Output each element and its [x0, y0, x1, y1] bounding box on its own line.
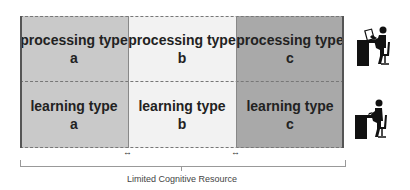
resource-grid: processing typea learning typea processi… — [20, 16, 344, 148]
cell-label: processing type — [128, 31, 235, 49]
top-dashed-border — [20, 16, 344, 17]
cell-processing-c: processing typec — [236, 16, 344, 81]
divider-b-c — [236, 16, 237, 148]
cell-label: learning type — [30, 97, 117, 115]
left-edge — [20, 16, 22, 148]
cell-learning-a: learning typea — [20, 81, 128, 148]
cell-sublabel: a — [20, 49, 127, 67]
cell-sublabel: b — [138, 115, 225, 133]
cell-learning-c: learning typec — [236, 81, 344, 148]
cell-processing-a: processing typea — [20, 16, 128, 81]
cell-processing-b: processing typeb — [128, 16, 236, 81]
cell-sublabel: c — [236, 49, 343, 67]
cell-sublabel: b — [128, 49, 235, 67]
cell-label: processing type — [236, 31, 343, 49]
caption: Limited Cognitive Resource — [0, 174, 364, 184]
resize-arrow-a-b-icon: ↔ — [123, 148, 132, 157]
cell-label: processing type — [20, 31, 127, 49]
cell-learning-b: learning typeb — [128, 81, 236, 148]
resource-bracket — [20, 160, 346, 167]
middle-dashed-divider — [20, 81, 344, 82]
bracket-tip — [181, 166, 182, 171]
person-at-desk-reading-icon — [357, 26, 395, 66]
cell-sublabel: c — [246, 115, 333, 133]
cell-sublabel: a — [30, 115, 117, 133]
cell-label: learning type — [138, 97, 225, 115]
bottom-dashed-border — [20, 147, 344, 148]
divider-a-b — [128, 16, 129, 148]
resize-arrow-b-c-icon: ↔ — [231, 148, 240, 157]
right-edge — [342, 16, 344, 148]
person-at-desk-writing-icon — [355, 99, 393, 139]
cell-label: learning type — [246, 97, 333, 115]
